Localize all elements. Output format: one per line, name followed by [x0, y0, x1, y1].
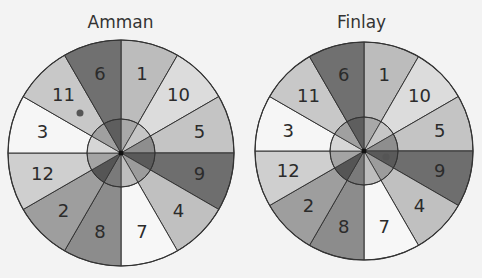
sector-label: 9 — [434, 160, 445, 181]
sector-label: 4 — [173, 200, 184, 221]
sector-label: 8 — [94, 221, 105, 242]
sector-label: 4 — [414, 195, 425, 216]
sector-label: 2 — [58, 200, 69, 221]
sector-label: 8 — [338, 216, 349, 237]
sector-label: 6 — [94, 63, 105, 84]
sector-label: 1 — [136, 63, 147, 84]
spinner-finlay: Finlay 110594782123116 — [241, 0, 482, 278]
marker-dot — [383, 154, 390, 161]
sector-label: 6 — [338, 64, 349, 85]
sector-label: 12 — [31, 163, 54, 184]
marker-dot — [77, 110, 84, 117]
sector-label: 5 — [434, 120, 445, 141]
spinner-wheel: 110594782123116 — [0, 0, 241, 278]
sector-label: 7 — [379, 216, 390, 237]
sector-label: 3 — [282, 120, 293, 141]
sector-label: 3 — [37, 121, 48, 142]
sector-label: 11 — [297, 85, 320, 106]
center-pin — [362, 149, 367, 154]
sector-label: 10 — [167, 84, 190, 105]
sector-label: 10 — [408, 85, 431, 106]
center-pin — [119, 151, 124, 156]
sector-label: 7 — [136, 221, 147, 242]
sector-label: 12 — [277, 160, 300, 181]
sector-label: 2 — [303, 195, 314, 216]
sector-label: 1 — [379, 64, 390, 85]
spinner-wheel: 110594782123116 — [241, 0, 482, 278]
sector-label: 9 — [194, 163, 205, 184]
sector-label: 11 — [52, 84, 75, 105]
sector-label: 5 — [194, 121, 205, 142]
spinner-amman: Amman 110594782123116 — [0, 0, 241, 278]
